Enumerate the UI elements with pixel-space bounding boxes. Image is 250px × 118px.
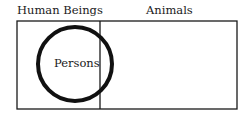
- persons-label: Persons: [54, 58, 100, 70]
- diagram-canvas: [0, 0, 250, 118]
